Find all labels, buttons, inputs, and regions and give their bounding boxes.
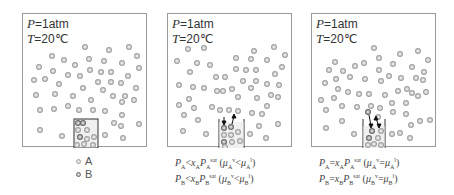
legend-item-a: A (76, 155, 92, 168)
equation-b: PB<xBPBsat (μBv<μBl) (175, 169, 254, 190)
panel-equilibrium: P=1atm T=20℃ (289, 0, 441, 195)
vessel-frame: P=1atm T=20℃ (167, 13, 292, 147)
particle-field (23, 14, 148, 148)
equation-b: PB=xBPBsat (μBv=μBl) (319, 169, 398, 190)
panel-initial: P=1atm T=20℃ A B (0, 0, 152, 195)
vessel-frame: P=1atm T=20℃ (22, 13, 147, 147)
particle-a-icon (76, 159, 81, 164)
particle-field (312, 14, 437, 148)
particle-field (168, 14, 293, 148)
panel-nonequilibrium: P=1atm T=20℃ (145, 0, 297, 195)
particle-b-icon (76, 172, 81, 177)
legend-item-b: B (76, 168, 92, 181)
vessel-frame: P=1atm T=20℃ (311, 13, 436, 147)
legend: A B (76, 155, 92, 181)
